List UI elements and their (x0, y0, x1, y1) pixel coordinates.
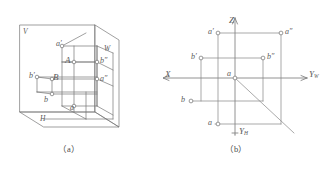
panel-b-unfolded-projection: Z X YW YH a′ a″ b′ b″ a b a （b） (163, 0, 326, 176)
marker-A (72, 60, 76, 64)
caption-b: （b） (225, 142, 247, 154)
label-A: A (65, 56, 71, 65)
marker-b-double-prime (95, 77, 99, 81)
label-axis-x: X (165, 70, 171, 79)
line-skew-bottom-right (97, 106, 113, 115)
marker-b-prime (199, 56, 203, 60)
marker-b-plan (189, 99, 193, 103)
marker-origin-a (233, 76, 237, 80)
label-b-plan: b (44, 96, 48, 104)
label-origin-a: a (227, 70, 231, 78)
label-B: B (53, 73, 59, 82)
line-aprime-skew (62, 33, 86, 46)
label-plane-w: W (104, 45, 110, 53)
marker-a-prime (216, 31, 220, 35)
marker-b-plan (50, 92, 54, 96)
panel-a-3d-projection-box: V W H a′ A b″ b′ B a″ b a （a） (0, 0, 163, 176)
label-axis-z: Z (229, 16, 234, 25)
marker-b-double-prime (261, 56, 265, 60)
label-plane-h: H (40, 115, 45, 123)
marker-a-plan (216, 122, 220, 126)
panel-b-point-markers (189, 31, 283, 126)
marker-a-double-prime-upper (95, 60, 99, 64)
label-plane-v: V (23, 28, 28, 36)
marker-b-prime (35, 75, 39, 79)
label-b-plan: b (181, 96, 185, 104)
label-b-double-prime: b″ (100, 57, 107, 65)
figure-root: V W H a′ A b″ b′ B a″ b a （a） (0, 0, 326, 176)
label-a-prime: a′ (56, 40, 62, 48)
line-45-degree-bisector (235, 78, 294, 133)
label-a-plan: a (208, 119, 212, 127)
label-axis-yh: YH (239, 127, 248, 136)
label-a-prime: a′ (208, 28, 214, 36)
label-b-prime: b′ (191, 53, 197, 61)
label-a-plan: a (70, 104, 74, 112)
marker-a-double-prime (279, 31, 283, 35)
label-b-double-prime: b″ (267, 53, 274, 61)
caption-a: （a） (58, 142, 80, 154)
plane-h-outline (20, 112, 119, 127)
label-a-double-prime: a″ (100, 75, 107, 83)
label-b-prime: b′ (29, 72, 35, 80)
label-axis-yw: YW (309, 70, 319, 79)
label-a-double-prime: a″ (285, 28, 292, 36)
